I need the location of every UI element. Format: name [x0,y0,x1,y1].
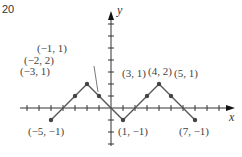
point-label: (7, −1) [179,125,209,138]
leader-line [94,66,98,92]
point-label: (1, −1) [118,125,148,138]
point-label: (−5, −1) [28,125,65,138]
data-point [169,94,173,98]
graph-plot: xy (−5, −1)(−3, 1)(−2, 2)(−1, 1)(1, −1)(… [0,0,242,157]
data-point [157,82,161,86]
point-label: (5, 1) [174,67,198,80]
point-label: (−2, 2) [24,54,54,67]
data-point [145,94,149,98]
data-point [73,94,77,98]
point-label: (−1, 1) [37,42,67,55]
point-label: (4, 2) [148,65,172,78]
point-label: (−3, 1) [20,65,50,78]
point-label: (3, 1) [122,67,146,80]
data-point [49,118,53,122]
data-point [85,82,89,86]
graph-line [51,84,195,120]
data-series [49,82,197,122]
data-point [193,118,197,122]
y-axis-arrow-icon [108,11,114,20]
data-point [97,94,101,98]
x-axis-label: x [228,110,235,124]
data-point [121,118,125,122]
point-labels: (−5, −1)(−3, 1)(−2, 2)(−1, 1)(1, −1)(3, … [20,42,209,138]
y-axis-label: y [116,3,123,17]
